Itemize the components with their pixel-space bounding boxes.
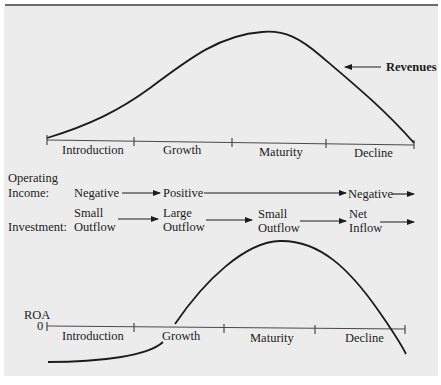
investment-label: Investment: bbox=[8, 221, 67, 234]
revenues-stage-maturity: Maturity bbox=[259, 146, 303, 159]
investment-value-maturity-line2: Outflow bbox=[258, 222, 300, 235]
investment-value-introduction-line2: Outflow bbox=[74, 221, 116, 234]
roa-stage-introduction: Introduction bbox=[62, 330, 124, 343]
operating-income-value-decline: Negative bbox=[348, 188, 393, 201]
roa-stage-decline: Decline bbox=[345, 332, 384, 345]
roa-zero-label: 0 bbox=[37, 320, 43, 333]
investment-value-growth-line2: Outflow bbox=[163, 221, 205, 234]
revenues-label: Revenues bbox=[386, 61, 437, 74]
investment-value-decline-line1: Net bbox=[349, 208, 367, 221]
roa-curve-negative-segment bbox=[48, 342, 163, 362]
operating-income-label-line2: Income: bbox=[8, 187, 49, 200]
revenues-stage-growth: Growth bbox=[163, 144, 201, 157]
operating-income-label-line1: Operating bbox=[8, 172, 58, 185]
investment-value-growth-line1: Large bbox=[163, 207, 192, 220]
roa-stage-maturity: Maturity bbox=[250, 332, 294, 345]
investment-value-introduction-line1: Small bbox=[74, 207, 103, 220]
revenues-curve bbox=[47, 32, 414, 143]
investment-value-decline-line2: Inflow bbox=[349, 222, 382, 235]
revenues-stage-decline: Decline bbox=[354, 147, 393, 160]
investment-value-maturity-line1: Small bbox=[258, 208, 287, 221]
revenues-stage-introduction: Introduction bbox=[62, 144, 124, 157]
operating-income-value-introduction: Negative bbox=[74, 187, 119, 200]
roa-stage-growth: Growth bbox=[162, 330, 200, 343]
operating-income-value-growth: Positive bbox=[163, 187, 203, 200]
